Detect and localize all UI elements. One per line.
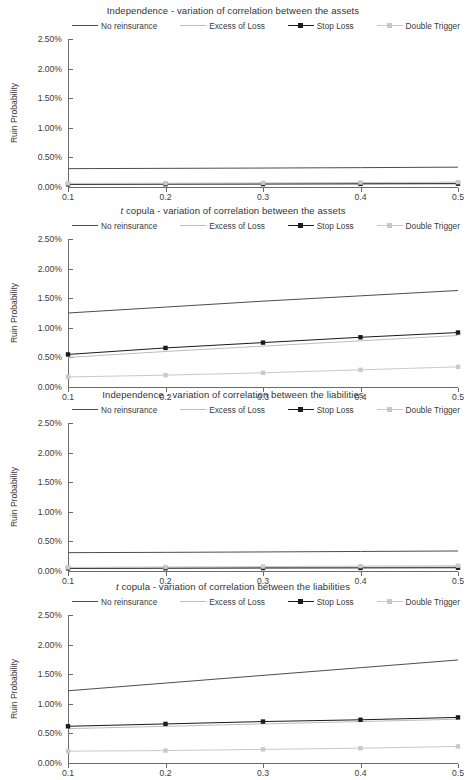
chart-title: t copula - variation of correlation betw… bbox=[0, 580, 466, 594]
series-line bbox=[68, 291, 458, 313]
chart-title-text: copula - variation of correlation betwee… bbox=[123, 205, 345, 216]
legend-item[interactable]: No reinsurance bbox=[72, 405, 157, 415]
series-marker bbox=[66, 565, 70, 569]
chart-title-text: copula - variation of correlation betwee… bbox=[119, 581, 350, 592]
series-marker bbox=[66, 352, 70, 356]
legend-swatch-icon bbox=[72, 405, 98, 414]
legend-swatch-icon bbox=[288, 405, 314, 414]
chart-title: t copula - variation of correlation betw… bbox=[0, 204, 466, 218]
legend-swatch-icon bbox=[377, 221, 403, 230]
plot-area: 0.00%0.50%1.00%1.50%2.00%2.50%0.10.20.30… bbox=[0, 615, 466, 780]
legend-item[interactable]: No reinsurance bbox=[72, 597, 157, 607]
series-line bbox=[68, 660, 458, 691]
chart-legend: No reinsuranceExcess of LossStop LossDou… bbox=[68, 595, 460, 608]
chart-title-text: Independence - variation of correlation … bbox=[102, 389, 363, 400]
legend-label: Excess of Loss bbox=[209, 221, 265, 231]
series-marker bbox=[261, 564, 265, 568]
chart-title-text: Independence - variation of correlation … bbox=[107, 5, 359, 16]
x-axis-tick-label: 0.1 bbox=[62, 192, 74, 202]
legend-label: Excess of Loss bbox=[209, 597, 265, 607]
legend-label: Stop Loss bbox=[317, 597, 354, 607]
series-marker bbox=[456, 715, 460, 719]
series-marker bbox=[358, 368, 362, 372]
legend-swatch-icon bbox=[288, 221, 314, 230]
legend-swatch-icon bbox=[72, 21, 98, 30]
series-marker bbox=[358, 335, 362, 339]
legend-swatch-icon bbox=[72, 597, 98, 606]
legend-label: Stop Loss bbox=[317, 21, 354, 31]
legend-item[interactable]: Double Trigger bbox=[377, 221, 460, 231]
series-marker bbox=[261, 747, 265, 751]
series-marker bbox=[66, 181, 70, 185]
series-marker bbox=[358, 746, 362, 750]
chart-panel: t copula - variation of correlation betw… bbox=[0, 580, 466, 770]
series-marker bbox=[456, 365, 460, 369]
plot-area: 0.00%0.50%1.00%1.50%2.00%2.50%0.10.20.30… bbox=[0, 423, 466, 591]
chart-legend: No reinsuranceExcess of LossStop LossDou… bbox=[68, 219, 460, 232]
series-line bbox=[68, 551, 458, 553]
legend-item[interactable]: Excess of Loss bbox=[180, 21, 265, 31]
legend-label: Double Trigger bbox=[406, 221, 460, 231]
legend-swatch-icon bbox=[180, 405, 206, 414]
x-axis-tick-label: 0.3 bbox=[257, 768, 269, 778]
legend-item[interactable]: No reinsurance bbox=[72, 21, 157, 31]
series-marker bbox=[163, 346, 167, 350]
legend-swatch-icon bbox=[180, 21, 206, 30]
legend-swatch-icon bbox=[288, 597, 314, 606]
legend-label: No reinsurance bbox=[101, 21, 157, 31]
plot-area: 0.00%0.50%1.00%1.50%2.00%2.50%0.10.20.30… bbox=[0, 39, 466, 207]
series-marker bbox=[163, 373, 167, 377]
legend-item[interactable]: Double Trigger bbox=[377, 597, 460, 607]
x-axis-tick-label: 0.4 bbox=[355, 192, 367, 202]
x-axis-tick-label: 0.5 bbox=[452, 192, 464, 202]
chart-title: Independence - variation of correlation … bbox=[0, 388, 466, 402]
legend-label: Stop Loss bbox=[317, 221, 354, 231]
series-marker bbox=[66, 749, 70, 753]
legend-item[interactable]: Stop Loss bbox=[288, 21, 354, 31]
series-marker bbox=[456, 330, 460, 334]
legend-item[interactable]: Double Trigger bbox=[377, 405, 460, 415]
legend-label: Excess of Loss bbox=[209, 21, 265, 31]
legend-item[interactable]: Stop Loss bbox=[288, 405, 354, 415]
series-layer bbox=[0, 615, 466, 769]
legend-label: Double Trigger bbox=[406, 597, 460, 607]
legend-item[interactable]: No reinsurance bbox=[72, 221, 157, 231]
series-marker bbox=[163, 748, 167, 752]
legend-swatch-icon bbox=[377, 405, 403, 414]
x-axis-tick-label: 0.4 bbox=[355, 768, 367, 778]
series-marker bbox=[261, 181, 265, 185]
legend-label: Excess of Loss bbox=[209, 405, 265, 415]
legend-item[interactable]: Excess of Loss bbox=[180, 597, 265, 607]
legend-item[interactable]: Stop Loss bbox=[288, 221, 354, 231]
legend-item[interactable]: Stop Loss bbox=[288, 597, 354, 607]
series-marker bbox=[358, 718, 362, 722]
legend-swatch-icon bbox=[180, 221, 206, 230]
series-marker bbox=[261, 371, 265, 375]
legend-swatch-icon bbox=[72, 221, 98, 230]
series-marker bbox=[163, 181, 167, 185]
legend-item[interactable]: Excess of Loss bbox=[180, 221, 265, 231]
legend-item[interactable]: Excess of Loss bbox=[180, 405, 265, 415]
series-marker bbox=[66, 375, 70, 379]
series-marker bbox=[261, 719, 265, 723]
legend-label: No reinsurance bbox=[101, 221, 157, 231]
series-marker bbox=[456, 563, 460, 567]
legend-swatch-icon bbox=[377, 597, 403, 606]
legend-item[interactable]: Double Trigger bbox=[377, 21, 460, 31]
series-layer bbox=[0, 39, 466, 193]
chart-legend: No reinsuranceExcess of LossStop LossDou… bbox=[68, 19, 460, 32]
chart-panel: Independence - variation of correlation … bbox=[0, 4, 466, 194]
series-marker bbox=[358, 564, 362, 568]
x-axis-tick-label: 0.2 bbox=[160, 768, 172, 778]
series-marker bbox=[261, 340, 265, 344]
series-marker bbox=[66, 724, 70, 728]
chart-title: Independence - variation of correlation … bbox=[0, 4, 466, 18]
series-layer bbox=[0, 239, 466, 393]
series-marker bbox=[456, 744, 460, 748]
series-marker bbox=[163, 722, 167, 726]
x-axis-tick-label: 0.5 bbox=[452, 768, 464, 778]
legend-swatch-icon bbox=[180, 597, 206, 606]
series-line bbox=[68, 335, 458, 357]
series-line bbox=[68, 167, 458, 168]
